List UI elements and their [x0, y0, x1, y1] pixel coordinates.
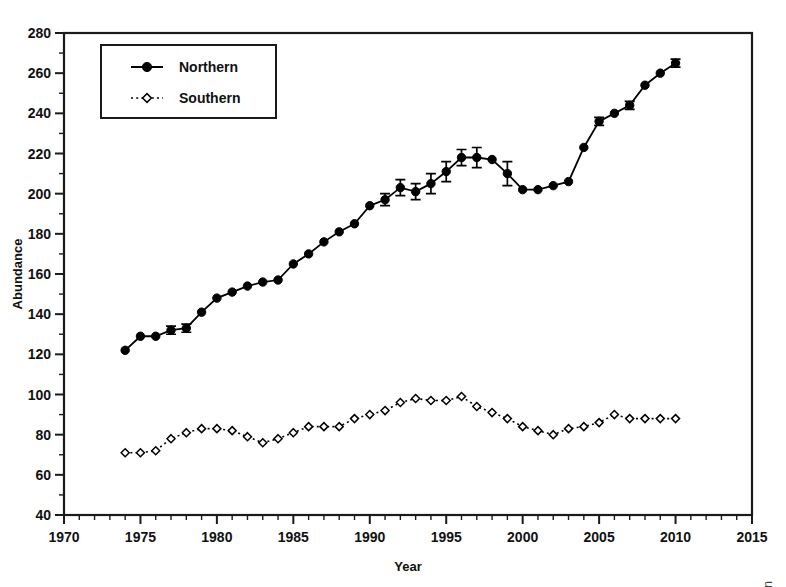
data-point	[289, 260, 297, 268]
data-point	[243, 282, 251, 290]
legend: NorthernSouthern	[101, 45, 276, 118]
data-point	[411, 187, 419, 195]
chart-canvas: 1970197519801985199019952000200520102015…	[0, 0, 786, 587]
data-point	[136, 449, 144, 457]
data-point	[182, 324, 190, 332]
data-point	[381, 407, 389, 415]
y-tick-label: 80	[35, 427, 51, 443]
x-tick-label: 1975	[125, 529, 156, 545]
data-point	[565, 425, 573, 433]
data-point	[427, 179, 435, 187]
data-point	[457, 153, 465, 161]
data-point	[228, 427, 236, 435]
data-point	[672, 415, 680, 423]
side-caption-container: Northern Resident Killer Whales of Briti…	[754, 0, 784, 587]
data-point	[121, 449, 129, 457]
data-point	[518, 185, 526, 193]
y-tick-label: 240	[28, 105, 52, 121]
figure-container: 1970197519801985199019952000200520102015…	[0, 0, 786, 587]
data-point	[305, 423, 313, 431]
y-tick-label: 160	[28, 266, 52, 282]
y-tick-label: 220	[28, 146, 52, 162]
data-point	[304, 250, 312, 258]
x-axis-title: Year	[394, 559, 421, 574]
data-point	[335, 228, 343, 236]
data-point	[442, 167, 450, 175]
x-tick-label: 2010	[660, 529, 691, 545]
legend-label: Southern	[179, 90, 240, 106]
data-point	[580, 423, 588, 431]
data-point	[610, 411, 618, 419]
x-tick-label: 2005	[584, 529, 615, 545]
x-tick-label: 1980	[201, 529, 232, 545]
data-point	[167, 435, 175, 443]
data-point	[335, 423, 343, 431]
data-point	[366, 202, 374, 210]
data-point	[671, 59, 679, 67]
data-point	[167, 326, 175, 334]
y-tick-label: 100	[28, 387, 52, 403]
data-point	[488, 409, 496, 417]
y-tick-label: 260	[28, 65, 52, 81]
data-point	[503, 415, 511, 423]
data-point	[213, 294, 221, 302]
data-point	[182, 429, 190, 437]
legend-marker-sample	[142, 62, 151, 71]
data-point	[549, 431, 557, 439]
data-point	[121, 346, 129, 354]
y-tick-label: 180	[28, 226, 52, 242]
y-tick-label: 140	[28, 306, 52, 322]
data-point	[136, 332, 144, 340]
data-point	[366, 411, 374, 419]
data-point	[427, 397, 435, 405]
data-point	[412, 395, 420, 403]
x-tick-label: 1995	[431, 529, 462, 545]
y-tick-label: 200	[28, 186, 52, 202]
data-point	[198, 425, 206, 433]
data-point	[534, 185, 542, 193]
y-tick-label: 120	[28, 346, 52, 362]
data-point	[350, 415, 358, 423]
x-tick-label: 1970	[48, 529, 79, 545]
y-tick-label: 280	[28, 25, 52, 41]
data-point	[152, 447, 160, 455]
data-point	[564, 177, 572, 185]
data-point	[595, 419, 603, 427]
data-point	[641, 415, 649, 423]
data-point	[243, 433, 251, 441]
data-point	[488, 155, 496, 163]
data-point	[213, 425, 221, 433]
data-point	[473, 403, 481, 411]
data-point	[656, 415, 664, 423]
data-point	[625, 101, 633, 109]
data-point	[350, 220, 358, 228]
data-point	[549, 181, 557, 189]
data-point	[503, 169, 511, 177]
data-point	[396, 183, 404, 191]
data-point	[656, 69, 664, 77]
data-point	[274, 276, 282, 284]
data-point	[580, 143, 588, 151]
x-tick-label: 1985	[278, 529, 309, 545]
data-point	[534, 427, 542, 435]
data-point	[473, 153, 481, 161]
data-point	[152, 332, 160, 340]
y-tick-label: 40	[35, 507, 51, 523]
data-point	[396, 399, 404, 407]
data-point	[610, 109, 618, 117]
data-point	[259, 278, 267, 286]
x-tick-label: 1990	[354, 529, 385, 545]
data-point	[259, 439, 267, 447]
legend-label: Northern	[179, 59, 238, 75]
data-point	[458, 393, 466, 401]
data-point	[320, 423, 328, 431]
data-point	[320, 238, 328, 246]
data-point	[519, 423, 527, 431]
series-southern	[121, 393, 679, 457]
y-tick-label: 60	[35, 467, 51, 483]
x-tick-label: 2000	[507, 529, 538, 545]
data-point	[197, 308, 205, 316]
data-point	[595, 117, 603, 125]
data-point	[641, 81, 649, 89]
y-axis-title: Abundance	[10, 239, 25, 310]
